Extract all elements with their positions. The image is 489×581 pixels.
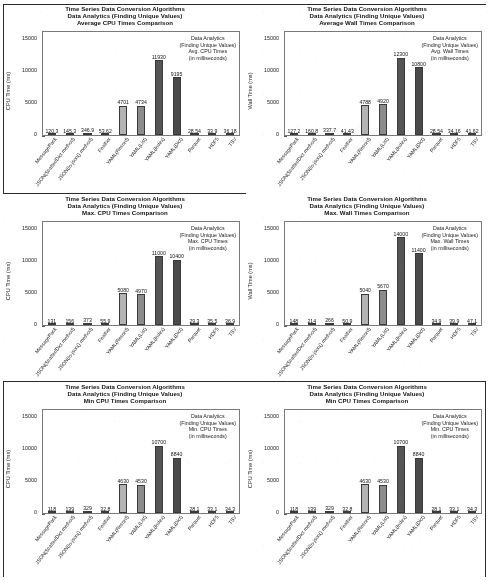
scanned-figure-page: Time Series Data Conversion AlgorithmsDa… [0, 0, 489, 581]
y-tick-label: 5000 [25, 477, 37, 483]
bar-value-label: 10800 [411, 61, 425, 67]
bar-value-label: 53.62 [99, 128, 112, 134]
plot-frame: 11813932932.84630453010700884028.133.134… [284, 409, 482, 514]
x-tick-label: JSON(to-json() method) [57, 326, 94, 371]
bar [379, 485, 387, 514]
y-tick-label: 0 [34, 131, 37, 137]
x-tick-label: HDF5 [449, 514, 462, 528]
bar-value-label: 214 [307, 318, 316, 324]
bar [83, 133, 91, 135]
bar-value-label: 41.62 [466, 128, 479, 134]
chart-title-line-3: Min CPU Times Comparison [248, 398, 486, 405]
y-tick-label: 10000 [22, 445, 37, 451]
bar-value-label: 8840 [171, 451, 183, 457]
y-axis-ticks: 050001000015000 [6, 221, 40, 324]
bar-value-label: 55.9 [100, 318, 110, 324]
x-axis-labels: MessagePackJSON(Scatter/Dict method)JSON… [42, 136, 240, 194]
y-axis-ticks: 050001000015000 [6, 409, 40, 512]
chart-annotation: Data Analytics(Finding Unique Values)Max… [422, 225, 478, 251]
x-tick-label: YAML(Dict) [164, 326, 184, 350]
y-tick-label: 15000 [264, 413, 279, 419]
x-tick-label: YAML(Dict) [406, 136, 426, 160]
bar [325, 323, 333, 325]
bar-value-label: 33.9 [207, 128, 217, 134]
bar [155, 446, 163, 514]
x-tick-label: TSV [469, 514, 480, 525]
bar-value-label: 139 [307, 506, 316, 512]
x-axis-labels: MessagePackJSON(Scatter/Dict method)JSON… [42, 326, 240, 384]
bar-value-label: 11000 [152, 250, 166, 256]
y-tick-label: 5000 [25, 99, 37, 105]
chart-annotation: Data Analytics(Finding Unique Values)Min… [180, 413, 236, 439]
x-tick-label: Feather [97, 136, 112, 153]
bar-value-label: 12300 [394, 51, 408, 57]
x-tick-label: HDF5 [449, 326, 462, 340]
bar [137, 485, 145, 514]
chart-title: Time Series Data Conversion AlgorithmsDa… [248, 384, 486, 404]
y-tick-label: 15000 [22, 413, 37, 419]
bar-value-label: 4970 [135, 288, 147, 294]
bar-value-label: 5670 [377, 283, 389, 289]
bar [119, 293, 127, 325]
bar-value-label: 120.3 [45, 128, 58, 134]
bar-value-label: 10700 [152, 439, 166, 445]
chart-title-line-3: Average CPU Times Comparison [6, 20, 244, 27]
x-tick-label: Parquet [428, 136, 444, 153]
y-tick-label: 0 [34, 509, 37, 515]
chart-annotation: Data Analytics(Finding Unique Values)Avg… [422, 35, 478, 61]
bar [325, 133, 333, 135]
y-tick-label: 10000 [264, 445, 279, 451]
plot-area: CPU Time (ms)050001000015000120.3145.334… [6, 29, 244, 215]
y-tick-label: 0 [276, 131, 279, 137]
x-tick-label: Feather [339, 514, 354, 531]
bar [119, 484, 127, 513]
x-axis-labels: MessagePackJSON(Scatter/Dict method)JSON… [284, 326, 482, 384]
bar-value-label: 4734 [135, 99, 147, 105]
bar-value-label: 39.9 [449, 318, 459, 324]
bar-value-label: 5080 [117, 287, 129, 293]
bar-value-label: 14000 [394, 231, 408, 237]
y-tick-label: 15000 [264, 35, 279, 41]
bar [83, 511, 91, 513]
x-axis-labels: MessagePackJSON(Scatter/Dict method)JSON… [284, 514, 482, 572]
x-tick-label: YAML(Dict) [164, 136, 184, 160]
bar-value-label: 34.3 [467, 506, 477, 512]
bar-value-label: 34.16 [448, 128, 461, 134]
x-tick-label: HDF5 [207, 326, 220, 340]
chart-annotation: Data Analytics(Finding Unique Values)Min… [422, 413, 478, 439]
bar-value-label: 4920 [377, 98, 389, 104]
y-tick-label: 10000 [264, 257, 279, 263]
chart-max-cpu: Time Series Data Conversion AlgorithmsDa… [6, 196, 244, 378]
bar [415, 253, 423, 325]
x-tick-label: HDF5 [207, 514, 220, 528]
y-axis-ticks: 050001000015000 [248, 31, 282, 134]
x-tick-label: HDF5 [207, 136, 220, 150]
bar [155, 256, 163, 325]
chart-title: Time Series Data Conversion AlgorithmsDa… [6, 6, 244, 26]
bar-value-label: 131 [48, 318, 57, 324]
x-tick-label: TSV [469, 136, 480, 147]
chart-title: Time Series Data Conversion AlgorithmsDa… [6, 384, 244, 404]
y-tick-label: 15000 [22, 225, 37, 231]
bar-value-label: 32.8 [342, 506, 352, 512]
chart-title: Time Series Data Conversion AlgorithmsDa… [248, 196, 486, 216]
bar-value-label: 4530 [135, 478, 147, 484]
y-tick-label: 15000 [22, 35, 37, 41]
bar-value-label: 337.7 [323, 127, 336, 133]
chart-title-line-3: Max. CPU Times Comparison [6, 210, 244, 217]
bar-value-label: 266 [325, 317, 334, 323]
y-axis-ticks: 050001000015000 [6, 31, 40, 134]
bar [361, 105, 369, 135]
plot-area: Wall Time (ms)050001000015000127.2160.83… [248, 29, 486, 215]
bar [137, 294, 145, 325]
bar-value-label: 148 [290, 318, 299, 324]
plot-area: Wall Time (ms)05000100001500014821426650… [248, 219, 486, 401]
bar-value-label: 33.1 [449, 506, 459, 512]
plot-frame: 14821426650.950405670140001140034.939.94… [284, 221, 482, 326]
bar-value-label: 5040 [359, 287, 371, 293]
bar-value-label: 36.18 [224, 128, 237, 134]
bar-value-label: 346.9 [81, 127, 94, 133]
bar-value-label: 329 [83, 505, 92, 511]
plot-frame: 13115637355.950804970110001040029.335.53… [42, 221, 240, 326]
bar [155, 60, 163, 135]
